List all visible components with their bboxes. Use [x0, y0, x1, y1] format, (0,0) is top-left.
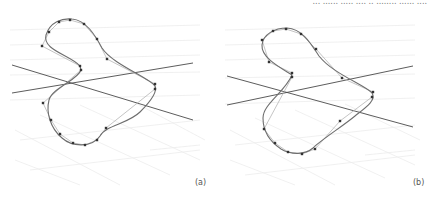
- control-point: [69, 19, 71, 21]
- ground-grid: [10, 25, 205, 185]
- control-point: [315, 48, 317, 50]
- panel-b: (b): [215, 0, 431, 202]
- control-point: [42, 102, 44, 104]
- panel-a-canvas: [0, 0, 215, 202]
- control-polygon: [262, 29, 373, 154]
- control-point: [274, 142, 276, 144]
- control-point: [291, 76, 293, 78]
- control-point: [263, 128, 265, 130]
- ground-grid: [225, 25, 420, 185]
- axis-line: [12, 63, 193, 93]
- control-point: [106, 58, 108, 60]
- control-point: [105, 127, 107, 129]
- control-point: [341, 77, 343, 79]
- control-point: [261, 39, 263, 41]
- control-point: [79, 65, 81, 67]
- spline-curve: [262, 28, 373, 153]
- axis-lines: [227, 66, 413, 127]
- control-point: [291, 72, 293, 74]
- control-point: [96, 38, 98, 40]
- control-point: [83, 23, 85, 25]
- control-point: [58, 21, 60, 23]
- spline-curve: [46, 19, 156, 145]
- panel-label-a: (a): [195, 178, 206, 187]
- control-polygon: [42, 20, 155, 145]
- control-point: [154, 83, 156, 85]
- control-point: [84, 144, 86, 146]
- control-point: [59, 133, 61, 135]
- control-point: [41, 45, 43, 47]
- panel-label-b: (b): [413, 178, 424, 187]
- control-point: [272, 30, 274, 32]
- control-point: [96, 139, 98, 141]
- control-point: [301, 153, 303, 155]
- panel-b-canvas: [215, 0, 431, 202]
- control-point: [285, 28, 287, 30]
- control-point: [372, 91, 374, 93]
- control-point: [371, 96, 373, 98]
- control-point: [72, 142, 74, 144]
- control-point: [314, 148, 316, 150]
- control-point: [48, 31, 50, 33]
- control-point: [80, 69, 82, 71]
- control-point: [339, 120, 341, 122]
- axis-lines: [12, 63, 193, 120]
- panel-a: (a): [0, 0, 215, 202]
- control-point: [50, 119, 52, 121]
- control-point: [268, 61, 270, 63]
- control-point: [300, 33, 302, 35]
- axis-line: [227, 76, 413, 127]
- control-point: [287, 151, 289, 153]
- control-point: [154, 88, 156, 90]
